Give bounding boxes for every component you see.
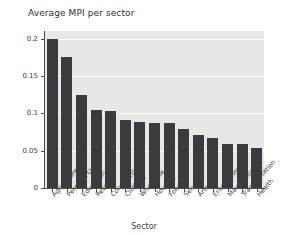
bar [47,39,58,188]
y-tick-label: 0.1 [27,109,38,117]
y-axis-line [44,31,45,189]
bar [178,129,189,188]
bar-series [45,31,264,188]
y-tick-mark [41,76,44,77]
y-tick-mark [41,113,44,114]
y-tick-mark [41,39,44,40]
y-tick-label: 0.2 [27,35,38,43]
chart-title: Average MPI per sector [28,8,134,18]
y-tick-mark [41,188,44,189]
y-tick-label: 0 [34,184,38,192]
bar [105,111,116,188]
x-axis-label: Sector [0,222,288,231]
y-tick-label: 0.05 [22,147,38,155]
chart-figure: Average MPI per sector Average MPI 00.05… [0,0,288,235]
y-tick-label: 0.15 [22,72,38,80]
plot-area [45,31,264,188]
bar [207,138,218,188]
y-tick-mark [41,151,44,152]
